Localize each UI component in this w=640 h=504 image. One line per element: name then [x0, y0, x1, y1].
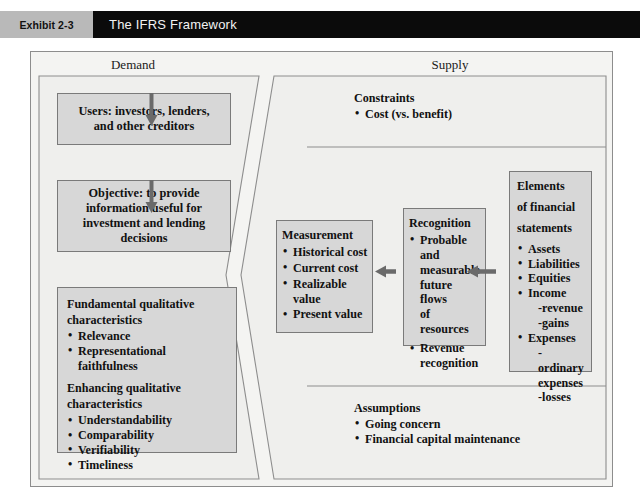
- list-item-label: Equities: [528, 271, 570, 285]
- list-item: •Comparability: [67, 428, 228, 443]
- bullet-icon: •: [518, 241, 522, 256]
- bullet-icon: •: [410, 232, 414, 247]
- measurement-list: •Historical cost•Current cost•Realizable…: [282, 245, 368, 322]
- list-item: •Verifiability: [67, 443, 228, 458]
- elements-box: Elements of financial statements •Assets…: [509, 171, 592, 372]
- list-item-label: Cost (vs. benefit): [365, 107, 452, 121]
- bullet-icon: •: [518, 330, 522, 345]
- list-item-label: Going concern: [365, 417, 441, 431]
- bullet-icon: •: [355, 416, 359, 431]
- measurement-heading: Measurement: [282, 228, 368, 243]
- bullet-icon: •: [355, 106, 359, 121]
- assumptions-list: •Going concern•Financial capital mainten…: [354, 417, 584, 447]
- bullet-icon: •: [518, 286, 522, 301]
- list-item: •Revenuerecognition: [409, 341, 481, 371]
- objective-line-1: Objective: to provide: [83, 186, 205, 201]
- list-item: •Equities: [517, 271, 587, 286]
- list-item-continuation: recognition: [420, 356, 481, 371]
- recognition-heading: Recognition: [409, 216, 481, 231]
- constraints-box: Constraints •Cost (vs. benefit): [354, 91, 544, 122]
- bullet-icon: •: [283, 244, 287, 259]
- list-item: •Probable andmeasurablefuture flowsof re…: [409, 233, 481, 337]
- sub-list-item: expenses: [538, 376, 587, 391]
- sub-list-item: -ordinary: [538, 346, 587, 376]
- list-item: •Assets: [517, 242, 587, 257]
- fundamental-group: Fundamental qualitative characteristics …: [67, 297, 228, 373]
- elements-list: •Assets•Liabilities•Equities•Income-reve…: [517, 242, 587, 406]
- bullet-icon: •: [518, 271, 522, 286]
- sub-list: -revenue-gains: [528, 301, 587, 331]
- sub-list: -ordinaryexpenses-losses: [528, 346, 587, 406]
- qualitative-characteristics-box: Fundamental qualitative characteristics …: [57, 287, 237, 453]
- objective-box: Objective: to provide information useful…: [57, 180, 231, 252]
- recognition-list: •Probable andmeasurablefuture flowsof re…: [409, 233, 481, 371]
- fundamental-heading-line-1: Fundamental qualitative: [67, 297, 228, 312]
- bullet-icon: •: [68, 428, 72, 443]
- list-item: •Going concern: [354, 417, 584, 432]
- bullet-icon: •: [68, 328, 72, 343]
- bullet-icon: •: [68, 413, 72, 428]
- enhancing-heading-line-2: characteristics: [67, 397, 228, 412]
- elements-heading-line-2: of financial: [517, 200, 587, 215]
- list-item-label: Timeliness: [78, 458, 133, 472]
- list-item-continuation: value: [293, 292, 368, 307]
- list-item-label: Representational faithfulness: [78, 344, 166, 373]
- list-item: •Liabilities: [517, 257, 587, 272]
- users-box: Users: investors, lenders, and other cre…: [57, 93, 231, 145]
- bullet-icon: •: [68, 442, 72, 457]
- list-item: •Representational faithfulness: [67, 344, 228, 374]
- bullet-icon: •: [283, 307, 287, 322]
- list-item-label: Present value: [293, 307, 362, 321]
- enhancing-group: Enhancing qualitative characteristics •U…: [67, 381, 228, 472]
- exhibit-title: The IFRS Framework: [93, 11, 640, 38]
- list-item: •Understandability: [67, 413, 228, 428]
- list-item: •Cost (vs. benefit): [354, 107, 544, 122]
- users-line-2: and other creditors: [78, 119, 209, 134]
- bullet-icon: •: [283, 276, 287, 291]
- arrow-users-to-objective-icon: [145, 93, 159, 127]
- list-item-label: Historical cost: [293, 245, 367, 259]
- enhancing-list: •Understandability•Comparability•Verifia…: [67, 413, 228, 473]
- list-item: •Timeliness: [67, 458, 228, 473]
- measurement-box: Measurement •Historical cost•Current cos…: [276, 220, 373, 333]
- list-item: •Current cost: [282, 261, 368, 276]
- list-item: •Financial capital maintenance: [354, 432, 584, 447]
- bullet-icon: •: [283, 260, 287, 275]
- objective-line-3: investment and lending: [83, 216, 205, 231]
- objective-line-2: information useful for: [83, 201, 205, 216]
- bullet-icon: •: [410, 341, 414, 356]
- list-item-label: Assets: [528, 242, 560, 256]
- list-item-label: Financial capital maintenance: [365, 432, 520, 446]
- users-line-1: Users: investors, lenders,: [78, 104, 209, 119]
- sub-list-item: -revenue: [538, 301, 587, 316]
- list-item: •Present value: [282, 307, 368, 322]
- arrow-elements-to-recognition-icon: [467, 264, 497, 279]
- assumptions-box: Assumptions •Going concern•Financial cap…: [354, 401, 584, 447]
- elements-heading-line-3: statements: [517, 221, 587, 236]
- list-item-label: Income: [528, 286, 566, 300]
- bullet-icon: •: [355, 431, 359, 446]
- fundamental-list: •Relevance•Representational faithfulness: [67, 329, 228, 374]
- list-item-label: Revenue: [420, 341, 464, 355]
- list-item-continuation: future flows: [420, 278, 481, 308]
- list-item: •Relevance: [67, 329, 228, 344]
- supply-panel: Constraints •Cost (vs. benefit) Measurem…: [251, 75, 607, 480]
- list-item: •Income-revenue-gains: [517, 286, 587, 331]
- sub-list-item: -gains: [538, 316, 587, 331]
- list-item-label: Probable and: [420, 233, 467, 262]
- constraints-list: •Cost (vs. benefit): [354, 107, 544, 122]
- exhibit-number-tag: Exhibit 2-3: [0, 11, 93, 38]
- list-item-label: Understandability: [78, 413, 172, 427]
- list-item-label: Liabilities: [528, 257, 580, 271]
- elements-heading-line-1: Elements: [517, 179, 587, 194]
- bullet-icon: •: [518, 256, 522, 271]
- list-item: •Realizablevalue: [282, 277, 368, 307]
- demand-panel: Users: investors, lenders, and other cre…: [38, 75, 260, 480]
- list-item: •Historical cost: [282, 245, 368, 260]
- list-item-label: Realizable: [293, 277, 347, 291]
- assumptions-heading: Assumptions: [354, 401, 584, 416]
- demand-panel-title: Demand: [38, 57, 228, 73]
- arrow-recognition-to-measurement-icon: [375, 264, 397, 279]
- list-item-label: Expenses: [528, 331, 576, 345]
- supply-panel-title: Supply: [355, 57, 545, 73]
